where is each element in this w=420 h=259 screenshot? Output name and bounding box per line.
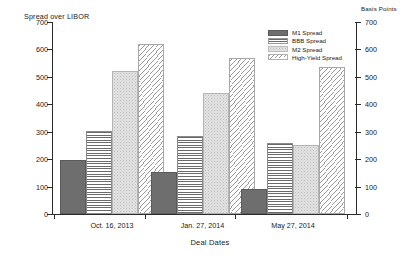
bar-m1-1 [151, 172, 177, 215]
legend-item-m1[interactable]: M1 Spread [268, 29, 354, 36]
legend-swatch-bbb-icon [268, 38, 288, 44]
y-axis-tick-label: 0 [8, 210, 48, 219]
secondary-y-axis-tick-label: 700 [365, 18, 405, 27]
legend: M1 SpreadBBB SpreadM2 SpreadHigh-Yield S… [268, 29, 354, 62]
secondary-y-axis-tick-label: 300 [365, 128, 405, 137]
y-axis-tick-label: 300 [8, 128, 48, 137]
x-axis-tick [235, 214, 236, 219]
legend-label: BBB Spread [292, 37, 326, 44]
legend-label: M1 Spread [292, 29, 322, 36]
legend-item-bbb[interactable]: BBB Spread [268, 37, 354, 44]
legend-label: High-Yield Spread [292, 54, 342, 61]
secondary-y-axis-tick [355, 49, 361, 50]
secondary-y-axis-tick [355, 187, 361, 188]
legend-swatch-m1-icon [268, 30, 288, 36]
x-axis-tick [347, 214, 348, 219]
x-axis-category-label: May 27, 2014 [271, 221, 315, 230]
secondary-y-axis-tick-label: 0 [365, 210, 405, 219]
y-axis-tick-label: 100 [8, 183, 48, 192]
secondary-y-axis-tick [355, 22, 361, 23]
bar-m2-1 [203, 93, 229, 214]
legend-swatch-hy-icon [268, 54, 288, 60]
x-axis-category-label: Oct. 16, 2013 [90, 221, 133, 230]
bar-m2-0 [112, 71, 138, 214]
legend-label: M2 Spread [292, 46, 322, 53]
secondary-y-axis-title: Basis Points [361, 5, 397, 12]
bar-bbb-2 [267, 143, 293, 214]
legend-item-m2[interactable]: M2 Spread [268, 45, 354, 52]
y-axis-tick-label: 500 [8, 73, 48, 82]
x-axis-tick [54, 214, 55, 219]
bar-m2-2 [293, 145, 319, 214]
secondary-y-axis-tick-label: 500 [365, 73, 405, 82]
legend-item-hy[interactable]: High-Yield Spread [268, 54, 354, 61]
y-axis-tick-label: 600 [8, 45, 48, 54]
secondary-y-axis-tick [355, 132, 361, 133]
secondary-y-axis-tick-label: 400 [365, 100, 405, 109]
bar-bbb-1 [177, 136, 203, 214]
secondary-y-axis-tick-label: 600 [365, 45, 405, 54]
x-axis-title: Deal Dates [0, 238, 420, 247]
secondary-y-axis-tick [355, 104, 361, 105]
secondary-y-axis-tick [355, 214, 361, 215]
y-axis-tick-label: 200 [8, 155, 48, 164]
legend-swatch-m2-icon [268, 46, 288, 52]
secondary-y-axis-tick [355, 77, 361, 78]
secondary-y-axis-tick-label: 100 [365, 183, 405, 192]
x-axis-tick [145, 214, 146, 219]
bar-m1-0 [60, 160, 86, 214]
bar-hy-2 [319, 67, 345, 214]
bar-m1-2 [241, 189, 267, 214]
x-axis-category-label: Jan. 27, 2014 [181, 221, 225, 230]
bar-chart: Spread over LIBOR Basis Points Deal Date… [0, 0, 420, 259]
x-axis-line [52, 214, 357, 215]
y-axis-tick-label: 700 [8, 18, 48, 27]
secondary-y-axis-tick-label: 200 [365, 155, 405, 164]
bar-bbb-0 [86, 131, 112, 214]
y-axis-tick-label: 400 [8, 100, 48, 109]
secondary-y-axis-tick [355, 159, 361, 160]
